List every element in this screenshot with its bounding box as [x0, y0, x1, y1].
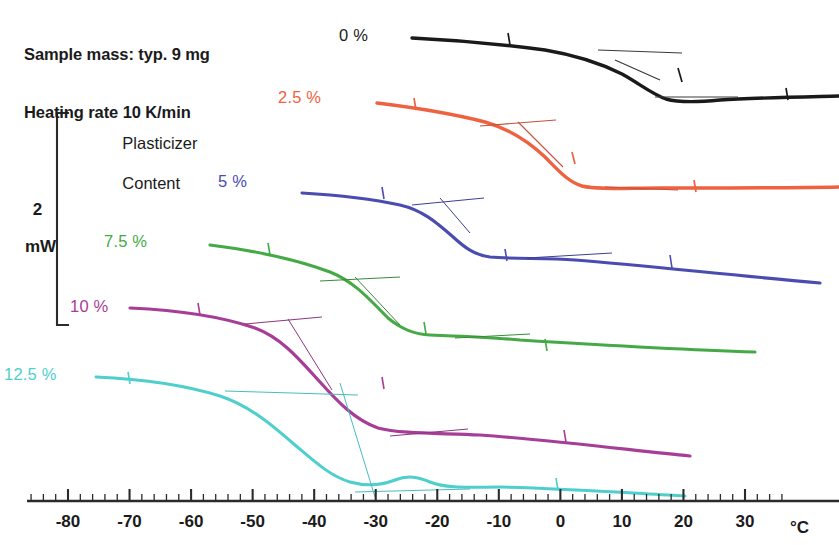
scale-bar-unit: mW: [25, 237, 56, 256]
baseline-extension-upper-7_5pct: [320, 277, 400, 281]
x-tick-label: -30: [363, 512, 388, 532]
datapoint-marker-7_5pct-b: [424, 322, 426, 334]
x-tick-label: -20: [425, 512, 450, 532]
series-group-5pct: [302, 187, 820, 283]
series-curve-5pct: [302, 193, 820, 283]
scale-bar-value: 2: [33, 200, 42, 219]
series-group-2_5pct: [377, 98, 839, 192]
series-label-5pct: 5 %: [218, 172, 247, 191]
series-label-12_5pct: 12.5 %: [4, 365, 57, 384]
x-tick-label: -10: [487, 512, 512, 532]
x-tick-label: 20: [674, 512, 693, 532]
baseline-extension-upper-0pct: [598, 50, 682, 53]
legend-title: Plasticizer Content: [104, 113, 198, 214]
series-group-7_5pct: [210, 243, 755, 352]
dsc-chart-figure: Sample mass: typ. 9 mg Heating rate 10 K…: [0, 0, 839, 545]
series-curve-7_5pct: [210, 245, 755, 352]
series-curve-0pct: [412, 38, 839, 102]
note-sample-mass: Sample mass: typ. 9 mg: [24, 45, 210, 64]
datapoint-marker-12_5pct-a: [128, 372, 130, 384]
x-tick-label: -70: [117, 512, 142, 532]
baseline-extension-lower-5pct: [527, 253, 612, 258]
series-group-12_5pct: [96, 372, 685, 497]
series-curve-2_5pct: [377, 103, 839, 189]
datapoint-marker-5pct-c: [670, 255, 672, 268]
datapoint-marker-10pct-c: [564, 430, 566, 442]
baseline-extension-upper-5pct: [412, 198, 484, 205]
legend-title-line-2: Content: [122, 174, 180, 192]
x-tick-label: -60: [179, 512, 204, 532]
series-label-0pct: 0 %: [339, 26, 368, 45]
baseline-extension-upper-10pct: [245, 317, 322, 324]
datapoint-marker-10pct-b: [382, 377, 384, 389]
legend-title-line-1: Plasticizer: [122, 134, 197, 152]
datapoint-marker-0pct-b: [678, 68, 682, 82]
series-group-0pct: [412, 33, 839, 102]
x-tick-label: 30: [736, 512, 755, 532]
series-label-7_5pct: 7.5 %: [104, 232, 147, 251]
x-tick-label: -50: [240, 512, 265, 532]
x-tick-label: -80: [56, 512, 81, 532]
tangent-onset-2_5pct: [518, 122, 563, 167]
x-tick-label: 0: [556, 512, 565, 532]
x-tick-label: 10: [612, 512, 631, 532]
datapoint-marker-0pct-a: [508, 33, 510, 45]
datapoint-marker-5pct-a: [382, 187, 384, 199]
datapoint-marker-2_5pct-c: [694, 180, 696, 192]
datapoint-marker-2_5pct-b: [572, 152, 575, 164]
series-label-10pct: 10 %: [70, 297, 108, 316]
tangent-onset-7_5pct: [355, 277, 400, 325]
tangent-onset-0pct: [615, 60, 660, 80]
series-group-10pct: [130, 303, 690, 456]
x-tick-label: -40: [302, 512, 327, 532]
scale-bar-label: 2 mW: [6, 183, 50, 275]
baseline-extension-upper-12_5pct: [225, 391, 358, 395]
x-axis-unit-label: °C: [790, 518, 809, 538]
series-label-2_5pct: 2.5 %: [278, 88, 321, 107]
series-curve-12_5pct: [96, 377, 685, 496]
x-axis: [27, 489, 839, 501]
